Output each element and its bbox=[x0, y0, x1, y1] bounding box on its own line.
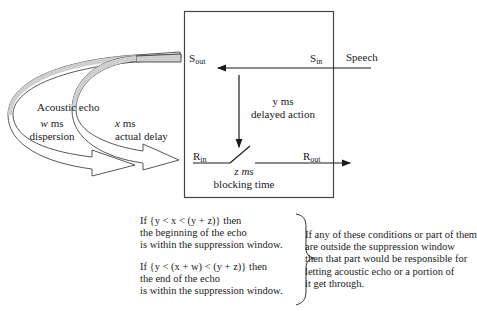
r-out-label: Rout bbox=[303, 150, 321, 166]
condition-beginning: If {y < x < (y + z)} then the beginning … bbox=[140, 215, 283, 252]
acoustic-echo-label: Acoustic echo bbox=[37, 101, 100, 114]
switch-icon bbox=[230, 146, 250, 163]
r-in-label: Rin bbox=[193, 150, 207, 166]
speech-label: Speech bbox=[346, 51, 378, 64]
s-in-label: Sin bbox=[310, 52, 322, 68]
actual-delay-label: x ms actual delay bbox=[115, 117, 168, 143]
blocking-time-label: z ms blocking time bbox=[212, 165, 276, 191]
conclusion-text: If any of these conditions or part of th… bbox=[305, 229, 477, 290]
s-out-label: Sout bbox=[189, 52, 205, 68]
delayed-action-label: y ms delayed action bbox=[240, 95, 326, 121]
condition-end: If {y < (x + w) < (y + z)} then the end … bbox=[140, 261, 283, 298]
dispersion-label: w ms dispersion bbox=[28, 117, 76, 143]
